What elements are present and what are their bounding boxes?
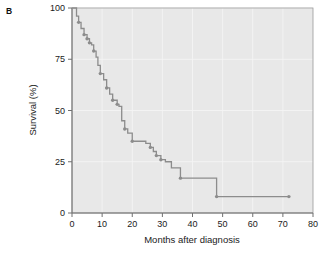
censor-mark <box>149 146 152 149</box>
censor-mark <box>287 195 290 198</box>
censor-mark <box>215 195 218 198</box>
censor-mark <box>85 37 88 40</box>
censor-mark <box>92 49 95 52</box>
x-tick-label: 20 <box>127 219 137 229</box>
x-tick-label: 80 <box>308 219 318 229</box>
y-axis-ticks: 0255075100 <box>50 3 72 218</box>
censor-mark <box>88 41 91 44</box>
y-tick-label: 75 <box>55 54 65 64</box>
x-tick-label: 50 <box>218 219 228 229</box>
censor-mark <box>115 103 118 106</box>
censor-mark <box>155 154 158 157</box>
y-tick-label: 0 <box>60 208 65 218</box>
x-tick-label: 40 <box>187 219 197 229</box>
censor-mark <box>123 127 126 130</box>
x-tick-label: 60 <box>248 219 258 229</box>
x-tick-label: 70 <box>278 219 288 229</box>
censor-mark <box>105 86 108 89</box>
censor-mark <box>82 33 85 36</box>
censor-mark <box>77 21 80 24</box>
y-tick-label: 50 <box>55 106 65 116</box>
censor-mark <box>111 99 114 102</box>
x-axis-title: Months after diagnosis <box>144 234 240 245</box>
y-tick-label: 100 <box>50 3 65 13</box>
y-axis-title: Survival (%) <box>27 84 38 135</box>
x-axis-ticks: 01020304050607080 <box>69 213 318 229</box>
censor-mark <box>159 158 162 161</box>
x-tick-label: 30 <box>157 219 167 229</box>
y-tick-label: 25 <box>55 157 65 167</box>
kaplan-meier-chart: 0255075100 01020304050607080 Months afte… <box>0 0 325 253</box>
x-tick-label: 0 <box>69 219 74 229</box>
survival-curve-figure: B 0255075100 01020304050607080 Months af… <box>0 0 325 253</box>
censor-mark <box>131 140 134 143</box>
censor-mark <box>99 72 102 75</box>
censor-mark <box>179 176 182 179</box>
x-tick-label: 10 <box>97 219 107 229</box>
